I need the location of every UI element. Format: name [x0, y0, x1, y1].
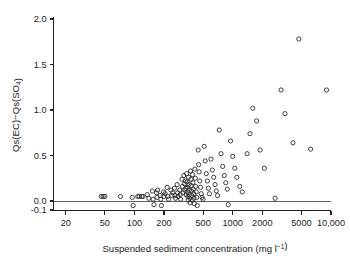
x-tick-label: 10,000 [317, 218, 345, 228]
data-point [240, 190, 244, 194]
data-point [324, 88, 328, 92]
data-point [222, 173, 226, 177]
data-point [258, 148, 262, 152]
data-point [235, 175, 239, 179]
data-point [165, 185, 169, 189]
data-point [251, 106, 255, 110]
x-tick-label: 5000 [291, 218, 311, 228]
data-point [156, 188, 160, 192]
data-point [147, 196, 151, 200]
x-tick-label: 50 [100, 218, 110, 228]
data-point [193, 176, 197, 180]
data-point [197, 163, 201, 167]
data-point [238, 184, 242, 188]
data-point [207, 192, 211, 196]
x-axis-ticks: 205010020050010002000500010,000 [61, 211, 345, 229]
y-tick-label: 2.0 [34, 14, 47, 24]
data-point [212, 175, 216, 179]
y-tick-label: 0.0 [34, 196, 47, 206]
data-point [118, 194, 122, 198]
x-tick-label: 100 [127, 218, 142, 228]
data-point [297, 37, 301, 41]
data-point [175, 183, 179, 187]
data-point [228, 139, 232, 143]
data-point [215, 193, 219, 197]
data-point [209, 157, 213, 161]
data-point [159, 203, 163, 207]
data-point [279, 88, 283, 92]
data-point [198, 185, 202, 189]
data-point [262, 166, 266, 170]
data-point [203, 159, 207, 163]
data-point [273, 196, 277, 200]
x-tick-label: 200 [156, 218, 171, 228]
data-points [99, 37, 328, 208]
x-tick-label: 500 [195, 218, 210, 228]
data-point [283, 112, 287, 116]
data-point [195, 195, 199, 199]
y-tick-label: 1.0 [34, 105, 47, 115]
data-point [233, 166, 237, 170]
data-point [245, 152, 249, 156]
scatter-plot: -0.10.00.51.01.52.0 20501002005001000200… [0, 0, 350, 264]
data-point [231, 154, 235, 158]
data-point [197, 170, 201, 174]
data-point [225, 187, 229, 191]
data-point [309, 147, 313, 151]
data-point [202, 144, 206, 148]
y-tick-label: 1.5 [34, 60, 47, 70]
data-point [219, 152, 223, 156]
y-tick-label: 0.5 [34, 151, 47, 161]
data-point [150, 189, 154, 193]
data-point [131, 203, 135, 207]
data-point [198, 179, 202, 183]
data-point [204, 172, 208, 176]
axes [54, 17, 332, 211]
data-point [152, 203, 156, 207]
data-point [196, 148, 200, 152]
data-point [221, 164, 225, 168]
data-point [130, 195, 134, 199]
data-point [217, 128, 221, 132]
data-point [213, 183, 217, 187]
data-point [248, 132, 252, 136]
data-point [210, 168, 214, 172]
data-point [214, 189, 218, 193]
data-point [193, 167, 197, 171]
x-axis-title: Suspended sediment concentration (mg l−1… [102, 240, 287, 254]
x-tick-label: 1000 [223, 218, 243, 228]
data-point [205, 179, 209, 183]
y-axis-title: Qs(EC)−Qs(SO4) [10, 78, 23, 152]
y-axis-ticks: -0.10.00.51.01.52.0 [31, 14, 54, 215]
x-tick-label: 2000 [252, 218, 272, 228]
data-point [255, 119, 259, 123]
data-point [206, 186, 210, 190]
data-point [226, 203, 230, 207]
figure-container: -0.10.00.51.01.52.0 20501002005001000200… [0, 0, 350, 264]
data-point [194, 184, 198, 188]
data-point [224, 181, 228, 185]
data-point [291, 141, 295, 145]
y-tick-label: -0.1 [31, 205, 47, 215]
x-tick-label: 20 [61, 218, 71, 228]
